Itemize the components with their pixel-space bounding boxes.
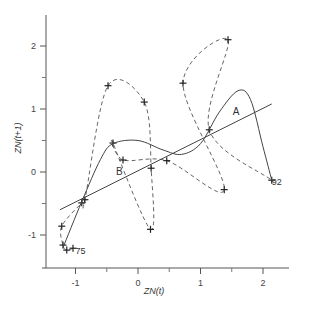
y-tick-label: 1 — [31, 104, 36, 114]
annotation-92: 92 — [272, 177, 282, 187]
annotation-B: B — [116, 166, 123, 177]
x-tick-label: 0 — [135, 278, 140, 288]
nonlinear-fit-curve — [63, 90, 272, 248]
data-point-marker — [58, 223, 65, 230]
chart: AB7592 -1012-1012 ZN(t) ZN(t+1) — [0, 0, 309, 311]
data-point-marker — [147, 226, 154, 233]
annotation-A: A — [233, 106, 240, 117]
annotation-75: 75 — [75, 246, 85, 256]
data-point-marker — [120, 157, 127, 164]
data-point-marker — [141, 99, 148, 106]
trajectory-dashed-line — [60, 38, 271, 250]
data-point-marker — [225, 36, 232, 43]
data-point-marker — [180, 80, 187, 87]
data-point-marker — [163, 157, 170, 164]
plot-area: AB7592 — [58, 36, 282, 256]
y-tick-label: 2 — [31, 41, 36, 51]
x-tick-label: -1 — [71, 278, 79, 288]
x-tick-label: 2 — [260, 278, 265, 288]
y-axis-title: ZN(t+1) — [13, 123, 23, 155]
y-tick-label: -1 — [28, 230, 36, 240]
x-axis-title: ZN(t) — [143, 286, 165, 296]
y-tick-label: 0 — [31, 167, 36, 177]
x-tick-label: 1 — [198, 278, 203, 288]
